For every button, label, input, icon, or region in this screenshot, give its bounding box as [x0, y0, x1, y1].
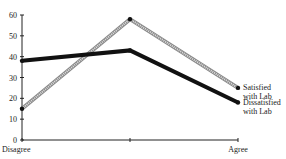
y-tick-label: 50: [9, 32, 17, 41]
legend-label: Dissatisfied: [243, 98, 281, 107]
line-chart: 0102030405060 DisagreeAgree Satisfiedwit…: [0, 0, 286, 159]
y-tick-label: 30: [9, 74, 17, 83]
y-tick-label: 40: [9, 53, 17, 62]
legend-label: with Lab: [243, 107, 272, 116]
data-point: [20, 107, 24, 111]
series-layer: [20, 17, 240, 111]
data-point: [236, 100, 240, 104]
data-point: [128, 17, 132, 21]
legend-label: Satisfied: [243, 83, 271, 92]
y-tick-label: 20: [9, 94, 17, 103]
x-tick-label: Agree: [228, 145, 248, 154]
y-tick-label: 60: [9, 11, 17, 20]
data-point: [236, 86, 240, 90]
y-tick-label: 10: [9, 115, 17, 124]
series-dissatisfied: [20, 48, 240, 104]
x-tick-label: Disagree: [2, 145, 31, 154]
legend: Satisfiedwith LabDissatisfiedwith Lab: [243, 83, 281, 116]
series-satisfied: [20, 17, 240, 111]
axes: 0102030405060 DisagreeAgree: [2, 11, 248, 154]
data-point: [128, 48, 132, 52]
y-tick-label: 0: [13, 136, 17, 145]
data-point: [20, 59, 24, 63]
